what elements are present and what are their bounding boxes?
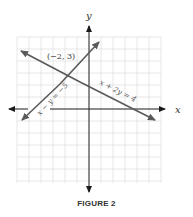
line2-label: x + 2y = 4 (98, 78, 138, 104)
coordinate-plane: y x (−2, 3) x − y = −5 x + 2y = 4 (0, 0, 193, 217)
y-axis-label: y (85, 10, 92, 21)
x-axis-label: x (175, 104, 181, 115)
point-label: (−2, 3) (47, 52, 75, 61)
axes (9, 26, 165, 192)
figure-caption: FIGURE 2 (0, 199, 193, 208)
